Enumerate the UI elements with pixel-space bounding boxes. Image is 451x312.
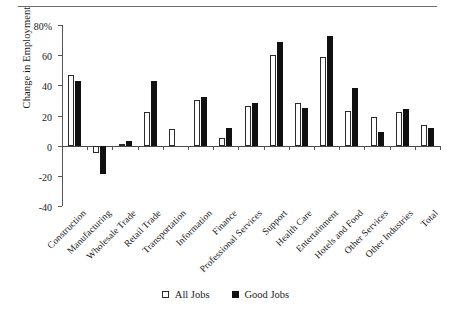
bar-all-jobs	[144, 112, 150, 145]
x-axis-tick	[289, 146, 290, 150]
bar-all-jobs	[270, 55, 276, 146]
y-axis-tick-label: 60	[42, 51, 52, 62]
x-axis-tick	[364, 146, 365, 150]
bar-good-jobs	[302, 108, 308, 146]
y-axis-tick: -20	[58, 176, 62, 177]
bar-good-jobs	[226, 128, 232, 146]
y-axis-tick-label: 40	[42, 81, 52, 92]
bar-good-jobs	[126, 141, 132, 146]
bar-all-jobs	[295, 103, 301, 145]
y-axis-tick-label: -40	[39, 202, 52, 213]
x-axis-tick	[138, 146, 139, 150]
y-axis-tick: 80%	[58, 25, 62, 26]
bar-good-jobs	[352, 88, 358, 145]
legend-item-good-jobs: Good Jobs	[232, 289, 290, 300]
bar-all-jobs	[320, 57, 326, 146]
bar-all-jobs	[119, 144, 125, 146]
legend-label-good-jobs: Good Jobs	[245, 289, 290, 300]
bar-good-jobs	[378, 132, 384, 146]
y-axis-tick-label: 80%	[34, 21, 52, 32]
y-axis-tick: -40	[58, 206, 62, 207]
bar-all-jobs	[219, 138, 225, 146]
chart-figure: Change in Employment -40-20020406080% Co…	[0, 0, 451, 312]
y-axis-tick-label: -20	[39, 171, 52, 182]
bar-all-jobs	[93, 146, 99, 154]
y-axis-tick-label: 0	[47, 141, 52, 152]
bar-good-jobs	[428, 128, 434, 146]
x-axis-tick	[314, 146, 315, 150]
y-axis-line	[62, 25, 63, 206]
x-axis-tick	[390, 146, 391, 150]
x-axis-tick	[163, 146, 164, 150]
x-axis-category-labels: ConstructionManufacturingWholesale Trade…	[62, 208, 440, 278]
x-axis-label: Total	[419, 208, 440, 229]
bar-all-jobs	[194, 100, 200, 145]
bar-good-jobs	[252, 103, 258, 145]
bar-all-jobs	[245, 106, 251, 145]
filled-square-icon	[232, 291, 239, 298]
x-axis-tick	[188, 146, 189, 150]
x-axis-tick	[440, 146, 441, 150]
y-axis-tick: 20	[58, 116, 62, 117]
x-axis-tick	[415, 146, 416, 150]
legend-label-all-jobs: All Jobs	[175, 289, 210, 300]
bar-all-jobs	[169, 129, 175, 146]
bar-all-jobs	[396, 112, 402, 145]
x-axis-label: Other Industries	[364, 208, 416, 260]
legend-item-all-jobs: All Jobs	[162, 289, 210, 300]
y-axis-label: Change in Employment	[21, 0, 32, 138]
bar-all-jobs	[345, 111, 351, 146]
x-axis-tick	[238, 146, 239, 150]
bar-good-jobs	[201, 97, 207, 145]
x-axis-tick	[339, 146, 340, 150]
y-axis-tick-label: 20	[42, 111, 52, 122]
bar-all-jobs	[68, 75, 74, 146]
bar-good-jobs	[151, 81, 157, 146]
bar-good-jobs	[327, 36, 333, 146]
y-axis-tick: 40	[58, 85, 62, 86]
y-axis-tick: 60	[58, 55, 62, 56]
hollow-square-icon	[162, 291, 169, 298]
x-axis-tick	[112, 146, 113, 150]
x-axis-tick	[264, 146, 265, 150]
top-divider-rule	[18, 6, 437, 7]
x-axis-tick	[87, 146, 88, 150]
bar-all-jobs	[421, 125, 427, 146]
x-axis-tick	[213, 146, 214, 150]
bar-good-jobs	[100, 146, 106, 175]
plot-area: -40-20020406080%	[62, 25, 440, 206]
bar-all-jobs	[371, 117, 377, 146]
chart-legend: All Jobs Good Jobs	[0, 289, 451, 300]
bar-good-jobs	[277, 42, 283, 146]
bar-good-jobs	[403, 109, 409, 145]
bar-good-jobs	[75, 81, 81, 146]
